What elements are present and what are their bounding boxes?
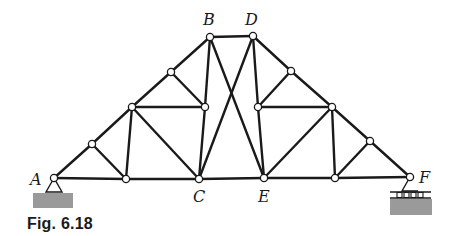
joint-f [406, 173, 413, 180]
member-t4-ir [258, 71, 291, 107]
label-c: C [193, 187, 205, 206]
member-t4-t5 [291, 71, 332, 107]
member-t2-t3 [132, 72, 171, 107]
joint-e [260, 174, 267, 181]
member-t1-t2 [92, 107, 132, 144]
member-b-il [205, 37, 210, 107]
joint-a [50, 174, 57, 181]
joint-r1 [331, 174, 338, 181]
truss-members [54, 36, 410, 179]
joint-t4 [287, 67, 294, 74]
member-t2-l1 [126, 107, 132, 179]
joint-l1 [122, 175, 129, 182]
member-a-t1 [54, 144, 92, 178]
member-t3-b [171, 37, 210, 72]
joint-b [206, 33, 213, 40]
member-t6-f [370, 141, 410, 177]
member-d-t4 [253, 36, 291, 71]
member-b-d [210, 36, 253, 37]
label-f: F [418, 168, 431, 187]
member-a-l1 [54, 178, 126, 179]
member-t1-l1 [92, 144, 126, 179]
joint-ir [254, 103, 261, 110]
label-b: B [202, 10, 215, 29]
joint-t5 [328, 103, 335, 110]
member-t5-r1 [332, 107, 335, 178]
label-d: D [244, 10, 258, 29]
label-e: E [257, 187, 270, 206]
member-t2-c [132, 107, 199, 179]
joint-t2 [128, 103, 135, 110]
truss-joints [50, 32, 413, 182]
member-t5-t6 [332, 107, 370, 141]
joint-d [249, 32, 256, 39]
member-r1-f [335, 177, 410, 178]
joint-t6 [366, 137, 373, 144]
member-t6-r1 [335, 141, 370, 178]
member-t3-il [171, 72, 205, 107]
label-a: A [28, 170, 42, 189]
figure-caption: Fig. 6.18 [27, 215, 93, 233]
joint-il [201, 103, 208, 110]
member-d-ir [253, 36, 258, 107]
member-c-e [199, 178, 264, 179]
joint-t1 [88, 140, 95, 147]
joint-c [195, 175, 202, 182]
truss-diagram: A B C D E F [0, 0, 457, 236]
member-t5-e [264, 107, 332, 178]
joint-t3 [167, 68, 174, 75]
